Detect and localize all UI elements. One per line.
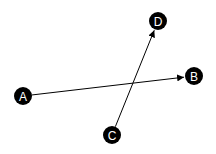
edge-c-d (115, 30, 154, 126)
node-label: D (154, 15, 163, 29)
node-c[interactable]: C (103, 126, 121, 144)
node-d[interactable]: D (149, 12, 167, 30)
graph-canvas: ABCD (0, 0, 216, 154)
node-b[interactable]: B (185, 67, 203, 85)
node-label: C (108, 129, 117, 143)
node-label: B (190, 70, 198, 84)
node-a[interactable]: A (14, 87, 32, 105)
edges-layer (32, 30, 184, 126)
node-label: A (19, 90, 27, 104)
edge-a-b (32, 77, 184, 95)
